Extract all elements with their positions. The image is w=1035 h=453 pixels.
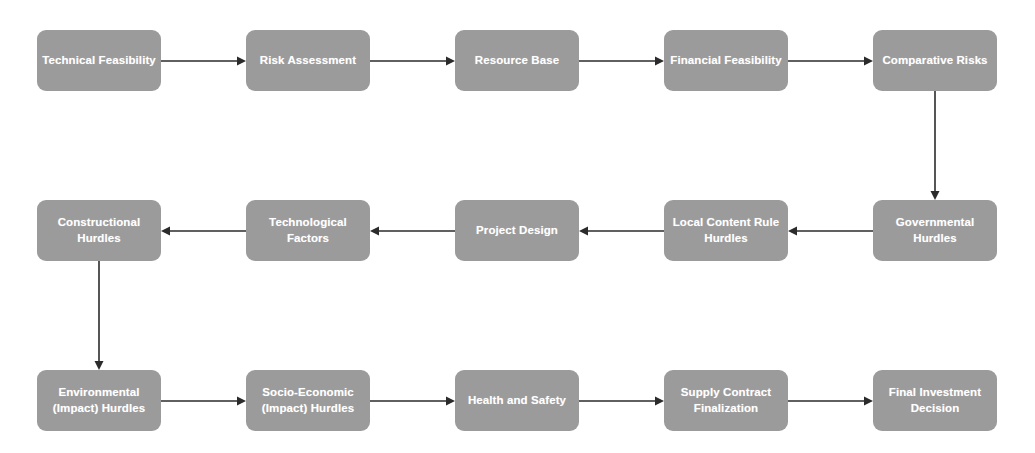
node-label: Governmental Hurdles [878,215,992,246]
node-risk-assessment[interactable]: Risk Assessment [246,30,370,91]
node-label: Socio-Economic (Impact) Hurdles [251,385,365,416]
node-socio-economic-impact-hurdles[interactable]: Socio-Economic (Impact) Hurdles [246,370,370,431]
node-final-investment-decision[interactable]: Final Investment Decision [873,370,997,431]
node-technical-feasibility[interactable]: Technical Feasibility [37,30,161,91]
arrow-technological-factors-to-constructional-hurdles [161,227,246,236]
arrow-health-and-safety-to-supply-contract-finalization [579,397,664,406]
arrow-constructional-hurdles-to-environmental-impact-hurdles [95,261,104,370]
node-label: Environmental (Impact) Hurdles [42,385,156,416]
node-environmental-impact-hurdles[interactable]: Environmental (Impact) Hurdles [37,370,161,431]
node-local-content-rule-hurdles[interactable]: Local Content Rule Hurdles [664,200,788,261]
arrow-technical-feasibility-to-risk-assessment [161,57,246,66]
node-health-and-safety[interactable]: Health and Safety [455,370,579,431]
arrow-environmental-to-socio-economic-hurdles [161,397,246,406]
node-label: Technical Feasibility [42,53,156,69]
arrow-local-content-rule-hurdles-to-project-design [579,227,664,236]
node-label: Risk Assessment [251,53,365,69]
node-financial-feasibility[interactable]: Financial Feasibility [664,30,788,91]
node-label: Final Investment Decision [878,385,992,416]
arrow-financial-feasibility-to-comparative-risks [788,57,873,66]
node-constructional-hurdles[interactable]: Constructional Hurdles [37,200,161,261]
node-label: Comparative Risks [878,53,992,69]
arrow-supply-contract-to-final-investment-decision [788,397,873,406]
node-governmental-hurdles[interactable]: Governmental Hurdles [873,200,997,261]
node-technological-factors[interactable]: Technological Factors [246,200,370,261]
arrow-resource-base-to-financial-feasibility [579,57,664,66]
arrow-risk-assessment-to-resource-base [370,57,455,66]
node-supply-contract-finalization[interactable]: Supply Contract Finalization [664,370,788,431]
node-label: Project Design [460,223,574,239]
arrow-governmental-hurdles-to-local-content-rule-hurdles [788,227,873,236]
arrow-project-design-to-technological-factors [370,227,455,236]
node-label: Supply Contract Finalization [669,385,783,416]
flowchart-canvas: Technical FeasibilityRisk AssessmentReso… [0,0,1035,453]
node-label: Resource Base [460,53,574,69]
node-label: Health and Safety [460,393,574,409]
arrow-comparative-risks-to-governmental-hurdles [931,91,940,200]
node-resource-base[interactable]: Resource Base [455,30,579,91]
node-comparative-risks[interactable]: Comparative Risks [873,30,997,91]
node-label: Technological Factors [251,215,365,246]
node-label: Local Content Rule Hurdles [669,215,783,246]
node-label: Constructional Hurdles [42,215,156,246]
node-label: Financial Feasibility [669,53,783,69]
arrow-socio-economic-to-health-and-safety [370,397,455,406]
node-project-design[interactable]: Project Design [455,200,579,261]
